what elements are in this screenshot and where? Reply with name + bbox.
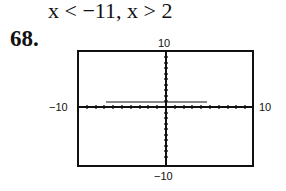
graph-window <box>0 0 286 191</box>
